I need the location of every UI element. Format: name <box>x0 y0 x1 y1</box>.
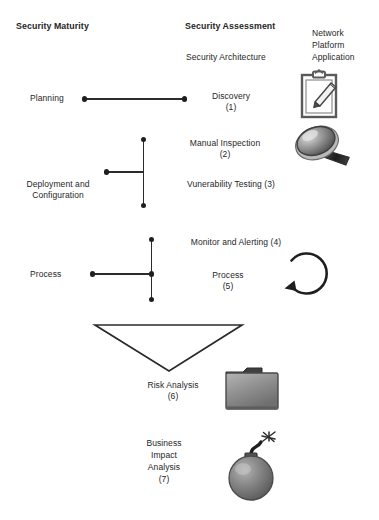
subheading-security-architecture: Security Architecture <box>186 52 266 63</box>
assessment-item-discovery: Discovery (1) <box>196 91 266 112</box>
connector-process-dot-center <box>149 271 154 276</box>
circular-arrow-icon <box>279 248 331 300</box>
connector-process-hline <box>92 273 151 275</box>
folder-icon <box>224 366 280 412</box>
maturity-stage-deployment-label: Deployment and Configuration <box>10 179 106 201</box>
connector-deployment-dot-bottom <box>141 203 146 208</box>
connector-process-dot-bottom <box>149 297 154 302</box>
assessment-item-vulnerability-testing: Vunerability Testing (3) <box>166 179 296 190</box>
maturity-stage-planning-label: Planning <box>30 93 64 104</box>
assessment-item-process: Process (5) <box>186 270 270 291</box>
column-heading-scope: Network Platform Application <box>312 27 355 63</box>
column-heading-security-assessment: Security Assessment <box>185 21 275 32</box>
assessment-item-business-impact-analysis: Business Impact Analysis (7) <box>122 437 206 485</box>
maturity-stage-process-label: Process <box>30 269 61 280</box>
bomb-icon <box>220 428 290 504</box>
connector-deployment-hline <box>106 171 143 173</box>
connector-planning-dot-left <box>82 96 87 101</box>
diagram-canvas: Security Maturity Security Assessment Ne… <box>0 0 379 520</box>
assessment-item-risk-analysis: Risk Analysis (6) <box>128 380 218 401</box>
assessment-item-manual-inspection: Manual Inspection (2) <box>170 138 280 159</box>
connector-deployment-dot-left <box>104 169 109 174</box>
assessment-item-monitor-alerting: Monitor and Alerting (4) <box>166 237 306 248</box>
connector-process-dot-left <box>90 271 95 276</box>
connector-planning-line <box>84 98 184 100</box>
clipboard-icon <box>297 69 345 119</box>
connector-deployment-dot-top <box>141 137 146 142</box>
connector-planning-dot-right <box>182 96 187 101</box>
column-heading-security-maturity: Security Maturity <box>16 21 89 32</box>
magnifying-glass-icon <box>292 122 354 176</box>
connector-process-dot-top <box>149 237 154 242</box>
connector-process-vline <box>151 240 153 300</box>
